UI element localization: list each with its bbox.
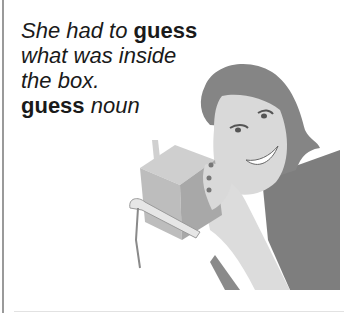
headword: guess: [21, 93, 85, 118]
part-of-speech: noun: [91, 93, 140, 118]
sentence-line-1: She had to guess: [21, 18, 197, 43]
box-tag: [152, 140, 160, 160]
sentence-line-3: the box.: [21, 68, 197, 93]
ribbon-tail: [136, 208, 140, 268]
sentence-line-2: what was inside: [21, 43, 197, 68]
sentence-text: She had to: [21, 18, 134, 43]
sentence-keyword: guess: [134, 18, 198, 43]
example-caption: She had to guess what was inside the box…: [21, 18, 197, 118]
forearm-shadow: [210, 255, 240, 290]
headword-line: guess noun: [21, 93, 197, 118]
